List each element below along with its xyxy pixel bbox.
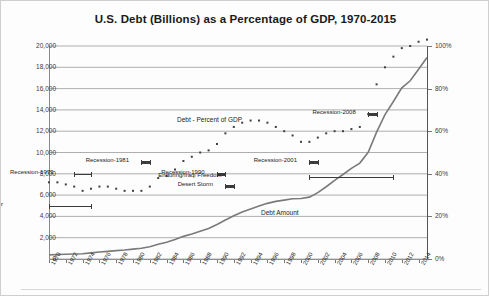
annotation-bracket-cap	[368, 112, 369, 117]
x-axis-tick-mark	[133, 260, 134, 263]
right-axis-line	[427, 46, 428, 260]
right-axis-tick-label: 40%	[435, 170, 469, 177]
series-marker-gdp-percent	[266, 122, 268, 124]
x-axis-tick-mark	[183, 260, 184, 263]
annotation-label: Desert Storm	[178, 181, 213, 187]
left-axis-tick-label: 16,000	[16, 85, 56, 92]
series-marker-gdp-percent	[216, 143, 218, 145]
series-marker-gdp-percent	[275, 126, 277, 128]
annotation-bracket	[141, 161, 149, 164]
series-marker-gdp-percent	[376, 83, 378, 85]
annotation-bracket	[368, 113, 376, 116]
annotation-bracket	[309, 177, 393, 178]
annotation-bracket-cap	[141, 160, 142, 165]
series-marker-gdp-percent	[115, 188, 117, 190]
x-axis-tick-mark	[167, 260, 168, 263]
series-marker-gdp-percent	[350, 128, 352, 130]
series-marker-gdp-percent	[392, 56, 394, 58]
series-marker-gdp-percent	[250, 120, 252, 122]
x-axis-tick-mark	[66, 260, 67, 263]
series-marker-gdp-percent	[300, 141, 302, 143]
series-marker-gdp-percent	[292, 134, 294, 136]
series-marker-gdp-percent	[48, 181, 50, 183]
series-marker-gdp-percent	[334, 130, 336, 132]
annotation-bracket-cap	[225, 184, 226, 189]
series-marker-gdp-percent	[124, 190, 126, 192]
left-axis-tick-label: 6,000	[16, 191, 56, 198]
series-marker-gdp-percent	[233, 126, 235, 128]
series-marker-gdp-percent	[384, 66, 386, 68]
x-axis-tick-mark	[116, 260, 117, 263]
x-axis-tick-mark	[150, 260, 151, 263]
right-axis-tick-label: 20%	[435, 212, 469, 219]
series-marker-gdp-percent	[208, 149, 210, 151]
right-axis-tick-label: 100%	[435, 42, 469, 49]
annotation-bracket-cap	[393, 175, 394, 180]
x-axis-tick-mark	[351, 260, 352, 263]
left-axis-tick-label: 18,000	[16, 63, 56, 70]
series-marker-gdp-percent	[191, 156, 193, 158]
series-marker-gdp-percent	[342, 130, 344, 132]
right-axis-tick-mark	[428, 174, 432, 175]
annotation-bracket-cap	[49, 204, 50, 209]
x-axis-tick-mark	[234, 260, 235, 263]
series-marker-gdp-percent	[401, 47, 403, 49]
annotation-bracket-cap	[74, 172, 75, 177]
series-marker-gdp-percent	[317, 137, 319, 139]
series-marker-gdp-percent	[82, 190, 84, 192]
series-marker-gdp-percent	[107, 186, 109, 188]
annotation-bracket-cap	[309, 160, 310, 165]
left-axis-tick-label: 4,000	[16, 212, 56, 219]
series-marker-gdp-percent	[98, 186, 100, 188]
annotation-bracket	[49, 206, 91, 207]
x-axis-tick-mark	[368, 260, 369, 263]
series-label-debt-amount: Debt Amount	[261, 209, 299, 216]
series-marker-gdp-percent	[90, 188, 92, 190]
x-axis-tick-mark	[301, 260, 302, 263]
series-marker-gdp-percent	[73, 186, 75, 188]
annotation-label: Enduring/Iraqi Freedom	[158, 172, 221, 178]
x-axis-tick-mark	[385, 260, 386, 263]
annotation-label: Recession-1981	[86, 157, 129, 163]
chart-title: U.S. Debt (Billions) as a Percentage of …	[1, 13, 489, 25]
series-marker-gdp-percent	[283, 130, 285, 132]
right-axis-tick-label: 0%	[435, 255, 469, 262]
footer-divider	[21, 289, 481, 290]
x-axis-tick-mark	[318, 260, 319, 263]
annotation-bracket	[74, 174, 91, 175]
x-axis-tick-mark	[251, 260, 252, 263]
series-marker-gdp-percent	[140, 190, 142, 192]
x-axis-tick-mark	[402, 260, 403, 263]
right-axis-tick-label: 80%	[435, 85, 469, 92]
series-marker-gdp-percent	[418, 41, 420, 43]
x-axis-tick-mark	[284, 260, 285, 263]
annotation-label: Recession-2001	[254, 157, 297, 163]
annotation-bracket-cap	[234, 184, 235, 189]
left-axis-tick-label: 10,000	[16, 149, 56, 156]
annotation-label: Recession-1973	[10, 169, 53, 175]
annotation-bracket	[225, 185, 233, 188]
series-marker-gdp-percent	[65, 183, 67, 185]
annotation-bracket-cap	[309, 175, 310, 180]
right-axis-tick-mark	[428, 46, 432, 47]
annotation-bracket-cap	[150, 160, 151, 165]
annotation-bracket-cap	[91, 172, 92, 177]
right-axis-tick-mark	[428, 89, 432, 90]
right-axis-tick-mark	[428, 216, 432, 217]
series-marker-gdp-percent	[149, 186, 151, 188]
series-marker-gdp-percent	[132, 190, 134, 192]
annotation-label: Vietnam War	[0, 201, 3, 207]
series-marker-gdp-percent	[409, 45, 411, 47]
x-axis-tick-mark	[49, 260, 50, 263]
series-marker-gdp-percent	[224, 132, 226, 134]
left-axis-tick-label: 2,000	[16, 234, 56, 241]
plot-area	[49, 46, 427, 259]
series-marker-gdp-percent	[325, 132, 327, 134]
annotation-bracket-cap	[318, 160, 319, 165]
right-axis-tick-label: 60%	[435, 127, 469, 134]
left-axis-tick-label: 12,000	[16, 127, 56, 134]
left-axis-tick-label: 14,000	[16, 106, 56, 113]
series-marker-gdp-percent	[56, 181, 58, 183]
annotation-bracket-cap	[225, 172, 226, 177]
chart-container: U.S. Debt (Billions) as a Percentage of …	[0, 0, 489, 296]
